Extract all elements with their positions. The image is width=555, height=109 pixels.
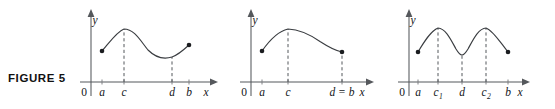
origin-label: 0 <box>399 86 405 98</box>
endpoint-dot-d-eq-b <box>340 50 345 55</box>
graph-panel-3: y 0 a c 1 d c 2 b x <box>396 0 555 109</box>
figure-container: FIGURE 5 y 0 a c <box>0 0 555 109</box>
function-curve <box>102 29 189 58</box>
x-tick-label-d: d <box>459 86 465 98</box>
x-tick-label-c1-subscript: 1 <box>439 92 443 101</box>
x-tick-label-a: a <box>259 86 265 98</box>
endpoint-dot-b <box>506 50 511 55</box>
endpoint-dot-a <box>260 49 265 54</box>
x-tick-label-c1: c <box>433 86 438 98</box>
y-axis-label: y <box>91 14 98 27</box>
y-axis-label: y <box>409 14 416 27</box>
graph-panel-2: y 0 a c d = b x <box>238 0 398 109</box>
endpoint-dot-a <box>100 49 105 54</box>
x-axis-label: x <box>202 86 209 98</box>
x-tick-label-c: c <box>285 86 290 98</box>
function-curve <box>262 29 342 52</box>
x-axis-arrow-icon <box>522 79 530 86</box>
x-tick-label-a: a <box>99 86 105 98</box>
x-tick-label-c2: c <box>481 86 486 98</box>
x-tick-label-b: b <box>186 86 192 98</box>
origin-label: 0 <box>241 86 247 98</box>
x-axis-label: x <box>516 86 523 98</box>
x-tick-label-d: d <box>169 86 175 98</box>
x-tick-label-b: b <box>505 86 511 98</box>
x-axis-arrow-icon <box>366 79 374 86</box>
x-tick-label-c: c <box>121 86 126 98</box>
x-axis-arrow-icon <box>210 79 218 86</box>
graph-panel-1: y 0 a c d b x <box>78 0 238 109</box>
y-axis-label: y <box>251 14 258 27</box>
x-tick-label-a: a <box>415 86 421 98</box>
x-axis-label: x <box>358 86 365 98</box>
origin-label: 0 <box>81 86 87 98</box>
function-curve <box>418 28 508 55</box>
x-tick-label-d-eq-b: d = b <box>329 86 354 98</box>
endpoint-dot-b <box>187 43 192 48</box>
figure-caption: FIGURE 5 <box>8 72 66 84</box>
x-tick-label-c2-subscript: 2 <box>487 92 491 101</box>
endpoint-dot-a <box>416 50 421 55</box>
